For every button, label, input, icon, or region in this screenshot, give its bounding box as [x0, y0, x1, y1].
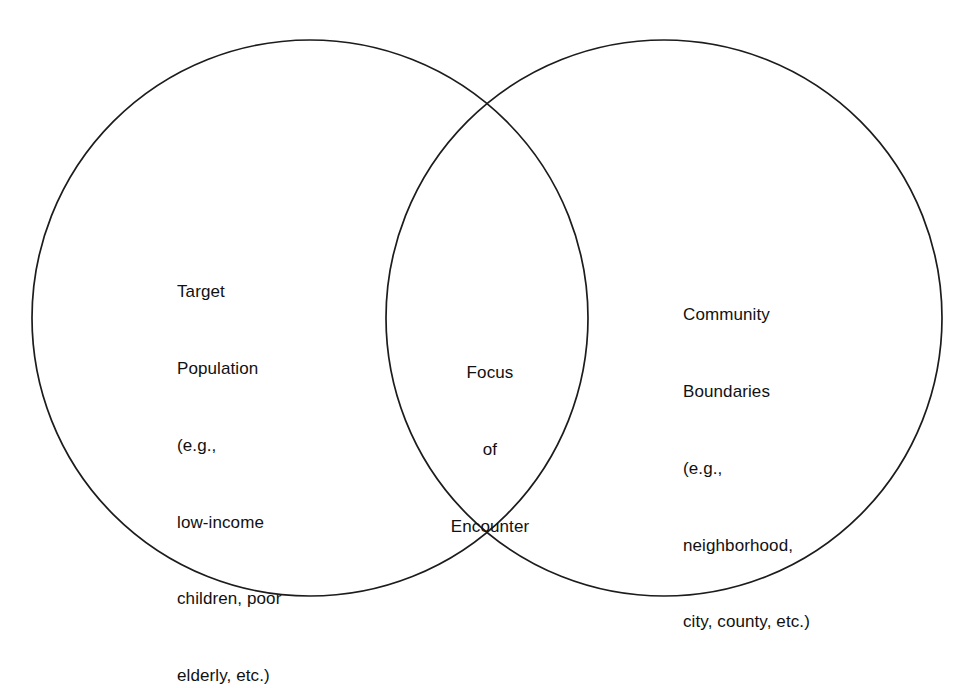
right-label-line-4: neighborhood, [683, 533, 810, 559]
intersection-label: Focus of Encounter [408, 309, 572, 591]
center-label-line-2: of [408, 437, 572, 463]
left-label-line-6: elderly, etc.) [177, 663, 281, 688]
right-label-line-5: city, county, etc.) [683, 609, 810, 635]
right-label-line-1: Community [683, 302, 810, 328]
left-label-line-3: (e.g., [177, 433, 281, 459]
right-set-label: Community Boundaries (e.g., neighborhood… [683, 251, 810, 686]
center-label-line-1: Focus [408, 360, 572, 386]
left-label-line-1: Target [177, 279, 281, 305]
left-set-label: Target Population (e.g., low-income chil… [177, 228, 281, 688]
right-label-line-2: Boundaries [683, 379, 810, 405]
left-label-line-4: low-income [177, 510, 281, 536]
left-label-line-5: children, poor [177, 586, 281, 612]
right-label-line-3: (e.g., [683, 456, 810, 482]
center-label-line-3: Encounter [408, 514, 572, 540]
left-label-line-2: Population [177, 356, 281, 382]
